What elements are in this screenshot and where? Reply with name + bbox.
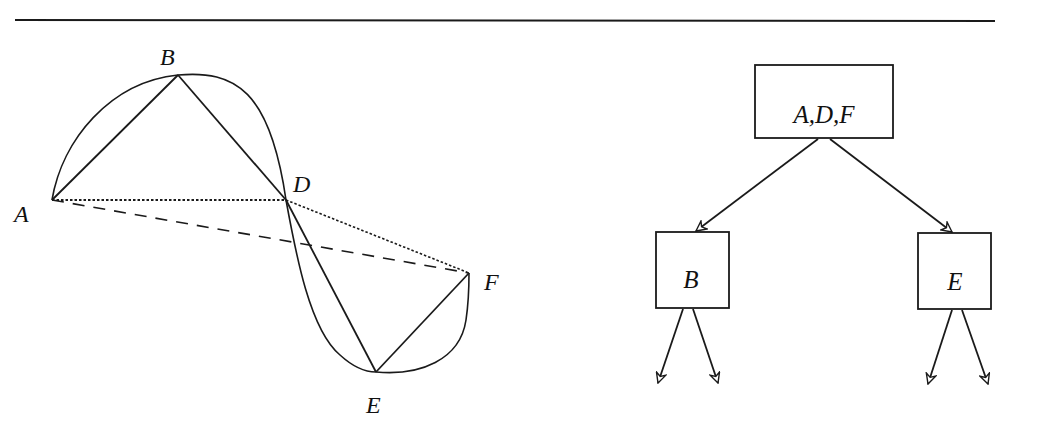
edge-root-to-e [830, 139, 952, 232]
chord-bd [178, 75, 286, 200]
edge-root-to-b [696, 139, 818, 231]
edge-b-right [693, 309, 718, 383]
label-b: B [160, 44, 175, 70]
dashed-af [52, 200, 469, 273]
edge-e-left [928, 310, 952, 384]
chord-ab [52, 75, 178, 200]
smooth-curve [52, 74, 469, 372]
top-rule [15, 20, 995, 21]
label-e: E [365, 392, 381, 418]
figure-canvas: A B D E F A,D,F B E [0, 0, 1042, 433]
label-d: D [292, 171, 310, 197]
edge-b-left [658, 309, 683, 383]
tree-node-e-label: E [946, 268, 962, 295]
chord-ef [376, 273, 469, 372]
tree-node-b-label: B [683, 266, 698, 293]
tree-root-label: A,D,F [791, 101, 855, 128]
dotted-df [286, 200, 469, 273]
label-f: F [483, 269, 499, 295]
label-a: A [12, 201, 29, 227]
curve-diagram [52, 74, 469, 372]
edge-e-right [962, 310, 988, 384]
